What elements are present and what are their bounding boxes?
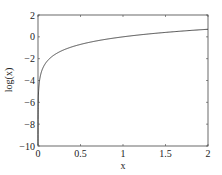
y-axis-label: log(x) — [3, 68, 15, 92]
x-tick-label: 1.5 — [159, 148, 172, 159]
x-tick-label: 0.5 — [74, 148, 87, 159]
plot-frame — [38, 15, 208, 146]
y-tick-label: −8 — [24, 119, 35, 130]
x-tick-label: 0 — [36, 148, 41, 159]
y-tick-label: 0 — [30, 31, 35, 42]
y-tick-label: −4 — [24, 75, 35, 86]
chart: 00.511.52 −10−8−6−4−202 x log(x) — [0, 0, 222, 175]
plot-area — [38, 15, 208, 146]
y-tick-label: 2 — [30, 10, 35, 21]
x-axis-label: x — [121, 160, 126, 171]
x-tick-label: 1 — [121, 148, 126, 159]
x-tick-label: 2 — [206, 148, 211, 159]
y-tick-label: −6 — [24, 97, 35, 108]
y-tick-label: −2 — [24, 53, 35, 64]
y-tick-label: −10 — [19, 141, 35, 152]
